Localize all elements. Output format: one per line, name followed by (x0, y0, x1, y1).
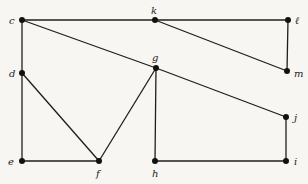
node-l (285, 17, 291, 23)
edge-g-h (155, 68, 156, 161)
node-label-f: f (95, 168, 102, 179)
node-label-c: c (9, 15, 15, 26)
edges-layer (22, 20, 288, 161)
node-label-j: j (292, 112, 297, 123)
edge-c-g (22, 20, 156, 68)
node-label-m: m (294, 68, 303, 79)
graph-diagram: ckℓdgmjefhi (0, 0, 308, 184)
edge-k-m (155, 20, 287, 71)
node-label-h: h (152, 168, 158, 179)
edge-f-g (99, 68, 156, 161)
node-d (19, 70, 25, 76)
node-i (283, 158, 289, 164)
node-g (153, 65, 159, 71)
node-label-i: i (294, 156, 297, 167)
node-label-e: e (8, 156, 14, 167)
edge-l-m (287, 20, 288, 71)
node-f (96, 158, 102, 164)
edge-g-j (156, 68, 286, 117)
node-label-d: d (9, 68, 15, 79)
node-m (284, 68, 290, 74)
node-j (283, 114, 289, 120)
node-k (152, 17, 158, 23)
node-label-l: ℓ (295, 15, 299, 26)
node-h (152, 158, 158, 164)
edge-d-f (22, 73, 99, 161)
node-label-k: k (151, 5, 157, 16)
node-c (19, 17, 25, 23)
node-e (19, 158, 25, 164)
node-label-g: g (152, 52, 158, 63)
